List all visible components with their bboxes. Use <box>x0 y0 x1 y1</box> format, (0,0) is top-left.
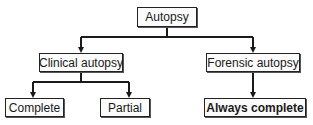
node-always-complete: Always complete <box>204 98 306 117</box>
node-clinical-autopsy: Clinical autopsy <box>39 53 123 72</box>
node-complete: Complete <box>5 98 64 117</box>
node-forensic-autopsy: Forensic autopsy <box>206 53 300 72</box>
node-partial: Partial <box>100 98 150 117</box>
node-autopsy: Autopsy <box>137 7 197 27</box>
